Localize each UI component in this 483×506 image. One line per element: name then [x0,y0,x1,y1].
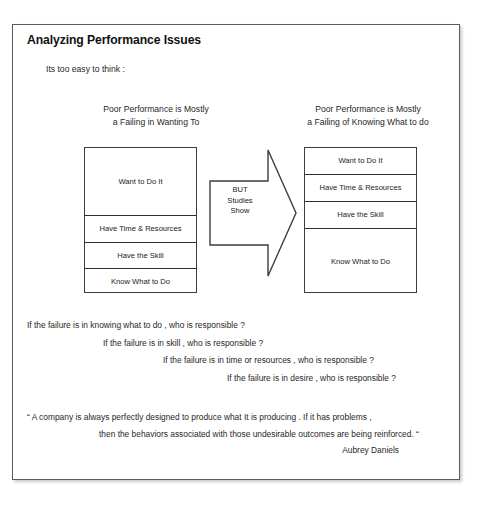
arrow-label: BUT Studies Show [213,185,267,217]
right-box-row: Have the Skill [305,201,416,228]
quote-attribution: Aubrey Daniels [27,443,447,457]
left-box-row: Want to Do It [85,148,196,215]
right-box-row: Know What to Do [305,228,416,294]
quote-block: “ A company is always perfectly designed… [27,409,447,457]
left-model-box: Want to Do It Have Time & Resources Have… [84,147,197,293]
quote-line: “ A company is always perfectly designed… [27,409,447,426]
right-model-box: Want to Do It Have Time & Resources Have… [304,147,417,293]
left-box-row: Know What to Do [85,268,196,294]
right-column-caption: Poor Performance is Mostly a Failing of … [277,103,459,129]
right-box-row: Want to Do It [305,148,416,174]
left-column-caption: Poor Performance is Mostly a Failing in … [76,103,236,129]
left-box-row: Have the Skill [85,242,196,268]
question-item: If the failure is in knowing what to do … [27,317,447,335]
left-caption-line-2: a Failing in Wanting To [76,116,236,129]
left-caption-line-1: Poor Performance is Mostly [76,103,236,116]
right-box-row: Have Time & Resources [305,174,416,201]
question-item: If the failure is in skill , who is resp… [27,335,447,353]
intro-text: Its too easy to think : [46,64,125,74]
question-item: If the failure is in time or resources ,… [27,352,447,370]
right-caption-line-1: Poor Performance is Mostly [277,103,459,116]
right-caption-line-2: a Failing of Knowing What to do [277,116,459,129]
quote-line: then the behaviors associated with those… [27,426,447,443]
questions-list: If the failure is in knowing what to do … [27,317,447,387]
arrow-label-line-3: Show [213,206,267,217]
transition-arrow: BUT Studies Show [209,149,297,277]
arrow-label-line-2: Studies [213,196,267,207]
page-title: Analyzing Performance Issues [27,33,201,47]
left-box-row: Have Time & Resources [85,215,196,242]
arrow-label-line-1: BUT [213,185,267,196]
question-item: If the failure is in desire , who is res… [27,370,447,388]
slide-frame: Analyzing Performance Issues Its too eas… [12,24,460,480]
